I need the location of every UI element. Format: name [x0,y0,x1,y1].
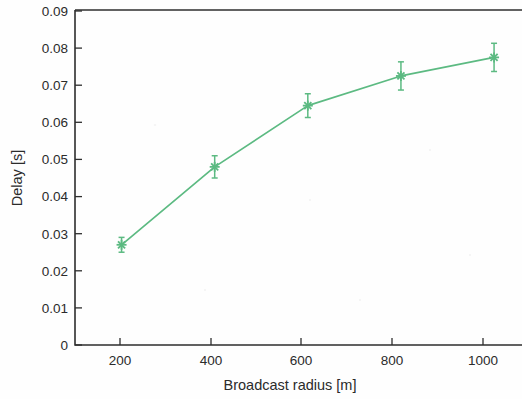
x-axis-title: Broadcast radius [m] [224,377,357,393]
y-tick-label: 0.03 [42,227,68,242]
y-tick-label: 0.08 [42,41,68,56]
x-tick-label: 600 [290,353,313,368]
x-tick-label: 800 [381,353,404,368]
data-point-marker [210,162,220,172]
x-tick-label: 400 [200,353,223,368]
y-tick-label: 0.09 [42,4,68,19]
data-point-marker [396,71,406,81]
y-tick-label: 0 [60,338,68,353]
y-tick-label: 0.04 [42,189,69,204]
y-axis-title: Delay [s] [9,150,25,206]
data-point-marker [117,240,127,250]
y-tick-label: 0.07 [42,78,68,93]
x-tick-label: 200 [109,353,132,368]
y-tick-label: 0.02 [42,264,68,279]
delay-vs-broadcast-radius-chart: 0 0.01 0.02 0.03 0.04 0.05 0.06 0.07 0.0… [0,0,522,399]
data-point-marker [303,101,313,111]
y-tick-label: 0.05 [42,152,68,167]
figure-background [0,0,522,399]
y-tick-label: 0.06 [42,115,68,130]
x-tick-label: 1000 [468,353,498,368]
data-point-marker [489,52,499,62]
y-tick-label: 0.01 [42,301,68,316]
chart-figure: 0 0.01 0.02 0.03 0.04 0.05 0.06 0.07 0.0… [0,0,522,399]
